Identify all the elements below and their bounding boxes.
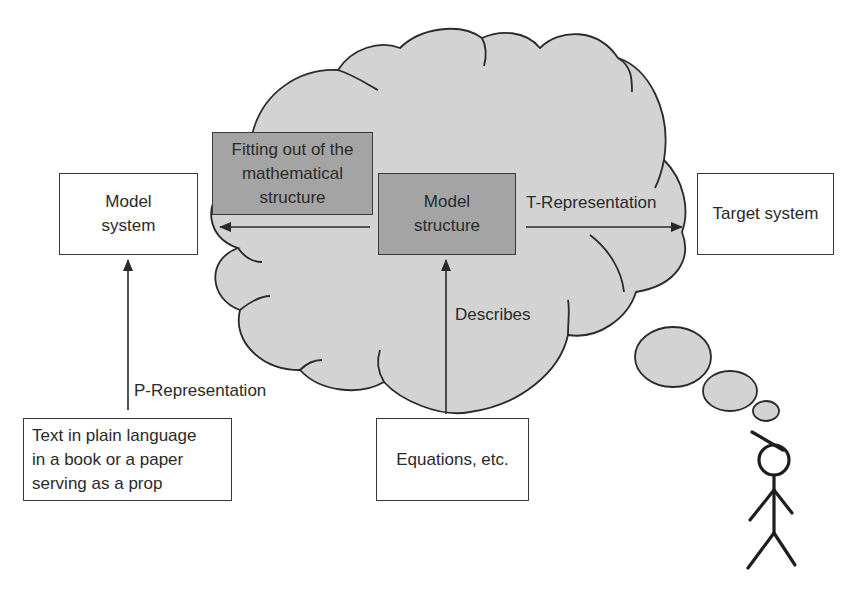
text-prop-label: Text in plain language in a book or a pa… [32,424,196,496]
model-structure-box: Model structure [378,173,516,255]
fitting-out-box: Fitting out of the mathematical structur… [212,132,373,215]
equations-label: Equations, etc. [396,448,508,472]
model-system-box: Model system [59,173,198,255]
diagram-graphics [0,0,854,592]
diagram-canvas: Model system Fitting out of the mathemat… [0,0,854,592]
describes-label: Describes [455,305,531,325]
t-representation-label: T-Representation [526,193,656,213]
fitting-out-label: Fitting out of the mathematical structur… [232,138,354,210]
model-structure-label: Model structure [414,190,480,238]
thought-bubbles-icon [635,327,779,421]
target-system-label: Target system [713,202,819,226]
p-representation-label: P-Representation [134,381,266,401]
target-system-box: Target system [697,173,834,255]
text-prop-box: Text in plain language in a book or a pa… [23,418,232,501]
equations-box: Equations, etc. [376,418,529,501]
model-system-label: Model system [102,190,156,238]
stick-figure-icon [748,432,795,568]
